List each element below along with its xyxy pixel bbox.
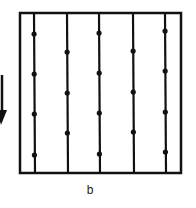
dot-marker — [162, 28, 167, 33]
dot-marker — [32, 111, 37, 116]
dot-marker — [97, 151, 102, 156]
dot-marker — [131, 129, 136, 134]
dot-marker — [163, 109, 168, 114]
dot-marker — [97, 70, 102, 75]
dot-marker — [32, 71, 37, 76]
vertical-lines — [31, 13, 168, 173]
dot-marker — [65, 130, 70, 135]
vertical-line-1 — [31, 13, 37, 173]
dot-marker — [97, 110, 102, 115]
dot-marker — [65, 90, 70, 95]
dot-marker — [131, 89, 136, 94]
dot-marker — [163, 149, 168, 154]
vertical-line-4 — [131, 13, 136, 173]
dot-marker — [65, 49, 70, 54]
figure-caption: b — [84, 183, 96, 197]
vertical-line-2 — [65, 13, 70, 173]
vertical-line-3 — [96, 13, 102, 173]
dot-marker — [32, 152, 37, 157]
dot-marker — [131, 48, 136, 53]
dot-marker — [96, 30, 101, 35]
dot-marker — [163, 68, 168, 73]
diagram-canvas — [0, 0, 196, 208]
arrow-down-icon — [0, 75, 7, 125]
dot-marker — [31, 31, 36, 36]
vertical-line-5 — [162, 13, 168, 173]
